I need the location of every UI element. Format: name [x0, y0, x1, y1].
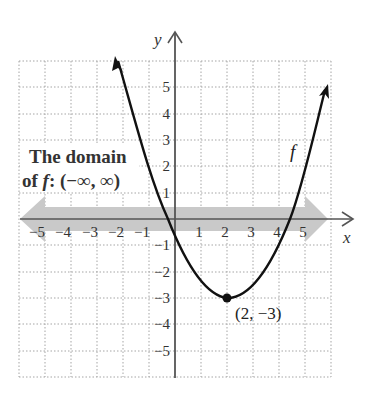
y-tick-label: −3 [154, 290, 170, 306]
curve-label-f: f [290, 141, 298, 162]
x-tick-label: 3 [247, 224, 255, 240]
curve-arrow-left-icon [112, 56, 123, 72]
y-axis [168, 32, 182, 378]
y-tick-label: −1 [154, 237, 170, 253]
x-tick-label: −2 [108, 224, 124, 240]
function-graph: y x −5 −4 −3 −2 −1 1 2 3 4 5 5 4 3 2 1 −… [0, 0, 373, 400]
x-tick-label: −3 [82, 224, 98, 240]
vertex-point [223, 294, 232, 303]
x-tick-label: 4 [273, 224, 281, 240]
vertex-label: (2, −3) [235, 304, 281, 323]
y-tick-label: 3 [163, 132, 171, 148]
y-tick-label: 1 [163, 185, 171, 201]
y-tick-label: 2 [163, 158, 171, 174]
domain-annotation-line2: of f: (−∞, ∞) [22, 170, 120, 192]
x-tick-label: 1 [195, 224, 203, 240]
x-tick-label: −4 [55, 224, 71, 240]
y-tick-label: 4 [163, 106, 171, 122]
domain-interval: : (−∞, ∞) [49, 170, 120, 192]
x-tick-label: 2 [221, 224, 229, 240]
x-tick-label: −5 [29, 224, 45, 240]
y-tick-label: −4 [154, 316, 170, 332]
x-tick-label: −1 [134, 224, 150, 240]
x-tick-label: 5 [299, 224, 307, 240]
y-tick-label: −5 [154, 343, 170, 359]
x-axis-label: x [342, 228, 351, 247]
y-tick-label: 5 [163, 79, 171, 95]
domain-annotation-line1: The domain [29, 146, 127, 167]
y-axis-label: y [152, 30, 162, 49]
domain-of-prefix: of [22, 170, 43, 191]
y-tick-label: −2 [154, 264, 170, 280]
